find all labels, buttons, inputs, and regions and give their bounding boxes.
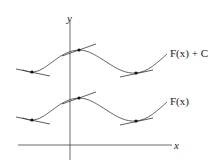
tangent-point: [134, 119, 137, 122]
antiderivative-diagram: x y F(x) + C F(x): [0, 0, 219, 166]
tangent-point: [30, 70, 33, 73]
y-axis-label: y: [66, 12, 72, 24]
curve-f: F(x): [16, 92, 189, 125]
curve-label-f-plus-c: F(x) + C: [170, 47, 208, 60]
tangent-point: [30, 118, 33, 121]
tangent-point: [77, 96, 80, 99]
tangent-point: [77, 48, 80, 51]
x-axis-label: x: [173, 139, 179, 151]
curve-label-f: F(x): [170, 95, 189, 108]
tangent-point: [134, 71, 137, 74]
curve-f-plus-c: F(x) + C: [16, 44, 208, 77]
